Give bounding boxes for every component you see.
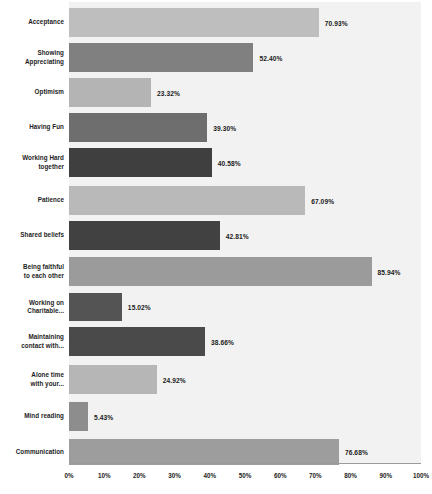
bar-value-label: 24.92% [163, 376, 186, 383]
bar-value-label: 76.68% [345, 449, 368, 456]
x-axis-tick: 30% [168, 472, 181, 479]
x-axis-tick: 100% [413, 472, 429, 479]
bar-track: 5.43% [69, 402, 421, 431]
x-axis-tick: 80% [344, 472, 357, 479]
bar-track: 15.02% [69, 293, 421, 321]
bar-row: Optimism23.32% [0, 78, 432, 107]
bar-track: 76.68% [69, 439, 421, 465]
bar-row: Working onCharitable...15.02% [0, 293, 432, 321]
bar[interactable] [69, 402, 88, 431]
bar-track: 67.09% [69, 186, 421, 215]
bar-rows: Acceptance70.93%ShowingAppreciating52.40… [0, 2, 432, 463]
x-axis-tick: 10% [98, 472, 111, 479]
bar-value-label: 39.30% [213, 124, 236, 131]
bar-track: 23.32% [69, 78, 421, 107]
x-axis-tick: 60% [274, 472, 287, 479]
category-label: Maintainingcontact with... [0, 333, 64, 350]
bar-value-label: 67.09% [311, 197, 334, 204]
category-label: ShowingAppreciating [0, 49, 64, 66]
bar-value-label: 23.32% [157, 89, 180, 96]
bar[interactable] [69, 78, 151, 107]
bar-row: Maintainingcontact with...38.66% [0, 327, 432, 356]
category-label: Alone timewith your... [0, 371, 64, 388]
horizontal-bar-chart: Acceptance70.93%ShowingAppreciating52.40… [0, 0, 432, 494]
bar-row: Acceptance70.93% [0, 8, 432, 37]
bar-track: 42.81% [69, 221, 421, 250]
bar[interactable] [69, 113, 207, 142]
category-label: Acceptance [0, 18, 64, 26]
category-label: Mind reading [0, 412, 64, 420]
bar-value-label: 52.40% [259, 54, 282, 61]
category-label: Being faithfulto each other [0, 263, 64, 280]
bar-row: Shared beliefs42.81% [0, 221, 432, 250]
bar[interactable] [69, 439, 339, 465]
bar-value-label: 40.58% [218, 159, 241, 166]
category-label: Optimism [0, 88, 64, 96]
bar-value-label: 85.94% [378, 268, 401, 275]
bar[interactable] [69, 221, 220, 250]
bar[interactable] [69, 148, 212, 177]
bar[interactable] [69, 327, 205, 356]
bar-row: Communication76.68% [0, 439, 432, 465]
category-label: Shared beliefs [0, 231, 64, 239]
x-axis-tick-labels: 0%10%20%30%40%50%60%70%80%90%100% [69, 466, 421, 486]
bar[interactable] [69, 365, 157, 394]
x-axis-tick: 40% [203, 472, 216, 479]
bar-track: 38.66% [69, 327, 421, 356]
x-axis-tick: 20% [133, 472, 146, 479]
category-label: Communication [0, 448, 64, 456]
category-label: Having Fun [0, 123, 64, 131]
x-axis-tick: 0% [64, 472, 73, 479]
bar-row: Patience67.09% [0, 186, 432, 215]
x-axis-tick: 70% [309, 472, 322, 479]
bar-value-label: 38.66% [211, 338, 234, 345]
x-axis-baseline [69, 463, 421, 464]
bar-track: 40.58% [69, 148, 421, 177]
x-axis-tick: 50% [239, 472, 252, 479]
bar-value-label: 5.43% [94, 413, 113, 420]
category-label: Working Hardtogether [0, 154, 64, 171]
bar-row: Working Hardtogether40.58% [0, 148, 432, 177]
bar-value-label: 15.02% [128, 304, 151, 311]
bar-row: ShowingAppreciating52.40% [0, 43, 432, 72]
bar-track: 52.40% [69, 43, 421, 72]
bar[interactable] [69, 293, 122, 321]
bar-row: Having Fun39.30% [0, 113, 432, 142]
category-label: Patience [0, 196, 64, 204]
bar-row: Alone timewith your...24.92% [0, 365, 432, 394]
bar-track: 24.92% [69, 365, 421, 394]
bar-value-label: 42.81% [226, 232, 249, 239]
category-label: Working onCharitable... [0, 299, 64, 316]
bar[interactable] [69, 43, 253, 72]
bar-track: 85.94% [69, 257, 421, 286]
bar-value-label: 70.93% [325, 19, 348, 26]
bar-row: Mind reading5.43% [0, 402, 432, 431]
bar[interactable] [69, 8, 319, 37]
bar-track: 39.30% [69, 113, 421, 142]
x-axis-tick: 90% [379, 472, 392, 479]
bar[interactable] [69, 257, 372, 286]
bar[interactable] [69, 186, 305, 215]
bar-row: Being faithfulto each other85.94% [0, 257, 432, 286]
bar-track: 70.93% [69, 8, 421, 37]
